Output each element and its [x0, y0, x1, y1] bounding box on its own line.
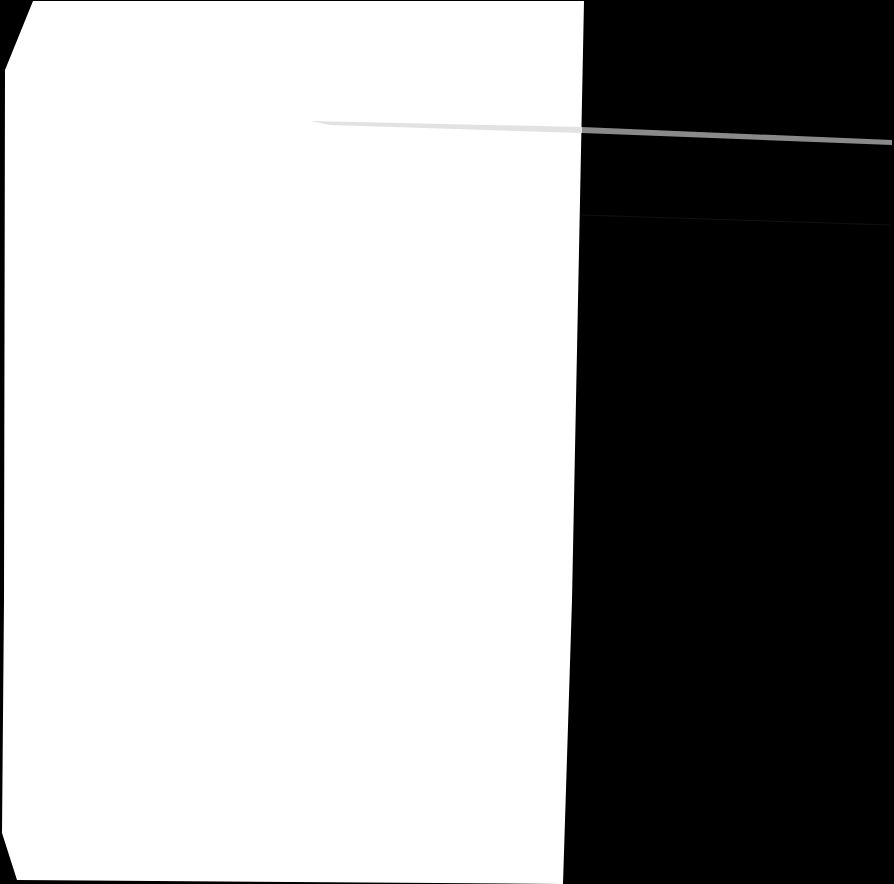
- faint-scan-line: [582, 215, 890, 225]
- page-canvas: [0, 0, 894, 884]
- scanned-document: [0, 0, 894, 884]
- paper-sheet: [2, 1, 584, 884]
- scan-streak: [582, 127, 892, 145]
